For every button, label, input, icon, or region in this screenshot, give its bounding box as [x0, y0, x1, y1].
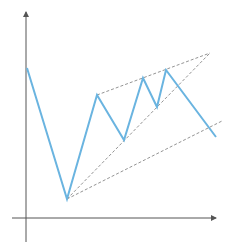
pattern-diagram	[0, 0, 226, 251]
trendlines	[67, 53, 222, 199]
price-line	[27, 68, 216, 199]
trendline-upper-resistance	[97, 53, 210, 95]
trendline-lower-support	[67, 121, 222, 199]
